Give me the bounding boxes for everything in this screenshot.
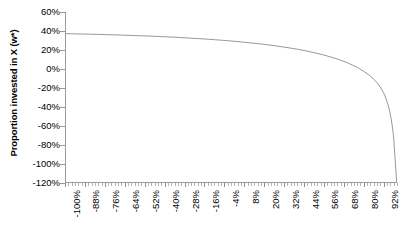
y-axis-tick-label: -120% xyxy=(12,177,60,188)
y-axis-tick-label: 20% xyxy=(12,44,60,55)
x-axis-tick-mark xyxy=(65,183,66,187)
x-axis-minor-tick xyxy=(208,183,209,186)
x-axis-tick-label: 44% xyxy=(310,190,321,234)
y-axis-tick-mark xyxy=(60,126,65,127)
x-axis-tick-mark xyxy=(264,183,265,187)
x-axis-minor-tick xyxy=(121,183,122,186)
x-axis-minor-tick xyxy=(78,183,79,186)
x-axis-minor-tick xyxy=(211,183,212,186)
x-axis-minor-tick xyxy=(194,183,195,186)
x-axis-minor-tick xyxy=(317,183,318,186)
x-axis-minor-tick xyxy=(337,183,338,186)
x-axis-tick-mark xyxy=(165,183,166,187)
x-axis-minor-tick xyxy=(188,183,189,186)
x-axis-minor-tick xyxy=(231,183,232,186)
x-axis-minor-tick xyxy=(151,183,152,186)
x-axis-minor-tick xyxy=(118,183,119,186)
x-axis-minor-tick xyxy=(271,183,272,186)
x-axis-minor-tick xyxy=(158,183,159,186)
x-axis-minor-tick xyxy=(228,183,229,186)
x-axis-minor-tick xyxy=(307,183,308,186)
y-axis-tick-mark xyxy=(60,107,65,108)
x-axis-minor-tick xyxy=(390,183,391,186)
x-axis-minor-tick xyxy=(377,183,378,186)
x-axis-minor-tick xyxy=(115,183,116,186)
y-axis-tick-label: -40% xyxy=(12,101,60,112)
x-axis-minor-tick xyxy=(370,183,371,186)
x-axis-tick-mark xyxy=(85,183,86,187)
x-axis-tick-mark xyxy=(105,183,106,187)
x-axis-minor-tick xyxy=(311,183,312,186)
x-axis-minor-tick xyxy=(394,183,395,186)
x-axis-tick-mark xyxy=(224,183,225,187)
x-axis-minor-tick xyxy=(238,183,239,186)
x-axis-tick-label: -88% xyxy=(90,190,101,234)
x-axis-minor-tick xyxy=(218,183,219,186)
x-axis-tick-label: -52% xyxy=(150,190,161,234)
x-axis-minor-tick xyxy=(221,183,222,186)
x-axis-minor-tick xyxy=(314,183,315,186)
x-axis-minor-tick xyxy=(234,183,235,186)
y-axis-tick-mark xyxy=(60,50,65,51)
y-axis-tick-mark xyxy=(60,145,65,146)
x-axis-minor-tick xyxy=(155,183,156,186)
y-axis-tick-label: -80% xyxy=(12,139,60,150)
x-axis-minor-tick xyxy=(321,183,322,186)
x-axis-minor-tick xyxy=(354,183,355,186)
x-axis-minor-tick xyxy=(128,183,129,186)
x-axis-tick-label: 92% xyxy=(389,190,400,234)
chart-container: Proportion invested in X (w*) 60%40%20%0… xyxy=(0,0,407,236)
series-plot xyxy=(66,12,398,183)
x-axis-minor-tick xyxy=(341,183,342,186)
x-axis-tick-mark xyxy=(185,183,186,187)
x-axis-minor-tick xyxy=(148,183,149,186)
x-axis-tick-mark xyxy=(204,183,205,187)
x-axis-minor-tick xyxy=(88,183,89,186)
x-axis-minor-tick xyxy=(351,183,352,186)
x-axis-minor-tick xyxy=(161,183,162,186)
y-axis-tick-mark xyxy=(60,88,65,89)
x-axis-minor-tick xyxy=(92,183,93,186)
x-axis-minor-tick xyxy=(277,183,278,186)
x-axis-tick-mark xyxy=(125,183,126,187)
x-axis-minor-tick xyxy=(367,183,368,186)
line-series-optimal-weight-in-x xyxy=(66,34,397,183)
y-axis-tick-label: 0% xyxy=(12,63,60,74)
y-axis-tick-mark xyxy=(60,31,65,32)
x-axis-tick-label: 56% xyxy=(329,190,340,234)
x-axis-minor-tick xyxy=(287,183,288,186)
x-axis-minor-tick xyxy=(241,183,242,186)
x-axis-minor-tick xyxy=(68,183,69,186)
x-axis-tick-label: 20% xyxy=(270,190,281,234)
x-axis-minor-tick xyxy=(171,183,172,186)
x-axis-minor-tick xyxy=(294,183,295,186)
x-axis-minor-tick xyxy=(291,183,292,186)
x-axis-tick-mark xyxy=(304,183,305,187)
x-axis-minor-tick xyxy=(191,183,192,186)
x-axis-tick-label: 32% xyxy=(290,190,301,234)
y-axis-tick-label: 40% xyxy=(12,25,60,36)
x-axis-tick-label: -28% xyxy=(190,190,201,234)
y-axis-tick-label: -20% xyxy=(12,82,60,93)
y-axis-tick-mark xyxy=(60,69,65,70)
x-axis-minor-tick xyxy=(102,183,103,186)
x-axis-tick-mark xyxy=(324,183,325,187)
x-axis-tick-mark xyxy=(364,183,365,187)
x-axis-minor-tick xyxy=(327,183,328,186)
x-axis-minor-tick xyxy=(135,183,136,186)
x-axis-tick-label: -76% xyxy=(110,190,121,234)
x-axis-minor-tick xyxy=(261,183,262,186)
x-axis-tick-label: -4% xyxy=(230,190,241,234)
x-axis-minor-tick xyxy=(214,183,215,186)
x-axis-minor-tick xyxy=(387,183,388,186)
y-axis-tick-label: -100% xyxy=(12,158,60,169)
plot-area xyxy=(65,12,397,183)
x-axis-tick-label: -100% xyxy=(71,190,82,234)
x-axis-minor-tick xyxy=(178,183,179,186)
x-axis-minor-tick xyxy=(72,183,73,186)
x-axis-minor-tick xyxy=(108,183,109,186)
x-axis-minor-tick xyxy=(268,183,269,186)
x-axis-minor-tick xyxy=(175,183,176,186)
x-axis-minor-tick xyxy=(75,183,76,186)
x-axis-tick-label: -40% xyxy=(170,190,181,234)
